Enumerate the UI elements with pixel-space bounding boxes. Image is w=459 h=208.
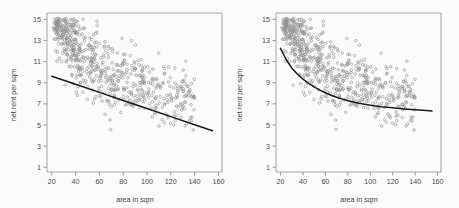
data-point — [391, 76, 394, 79]
data-point — [403, 69, 406, 72]
data-point — [134, 44, 137, 47]
data-point — [351, 76, 354, 79]
data-point — [191, 116, 194, 119]
data-point — [90, 38, 93, 41]
data-point — [184, 60, 187, 63]
data-point — [413, 129, 416, 132]
data-point — [355, 64, 358, 67]
data-point — [143, 66, 146, 69]
data-point — [116, 52, 119, 55]
data-point — [351, 96, 354, 99]
data-point — [380, 125, 383, 128]
data-point — [306, 28, 309, 31]
data-point — [299, 82, 302, 85]
plot-area-right — [280, 17, 432, 131]
data-point — [112, 68, 115, 71]
scatter-plot-left: 2040608010012014016013579111315 area in … — [0, 0, 229, 208]
data-point — [330, 49, 333, 52]
data-point — [96, 24, 99, 27]
data-point — [395, 67, 398, 70]
data-point — [151, 101, 154, 104]
data-point — [394, 123, 397, 126]
data-point — [350, 68, 353, 71]
data-point — [107, 67, 110, 70]
data-point — [310, 60, 313, 63]
data-point — [350, 63, 353, 66]
data-point — [334, 119, 337, 122]
data-point — [318, 102, 321, 105]
x-tick-label: 80 — [344, 177, 352, 186]
data-point — [111, 62, 114, 65]
data-point — [313, 67, 316, 70]
figure-container: 2040608010012014016013579111315 area in … — [0, 0, 459, 208]
data-point — [155, 104, 158, 107]
y-tick-label: 11 — [263, 57, 270, 66]
data-point — [86, 67, 89, 70]
data-point — [137, 59, 140, 62]
data-point — [193, 78, 196, 81]
x-tick-label: 80 — [119, 177, 127, 186]
data-point — [107, 87, 110, 90]
data-point — [139, 93, 142, 96]
data-point — [58, 57, 61, 60]
x-tick-label: 160 — [432, 177, 444, 186]
data-point — [358, 84, 361, 87]
data-point — [78, 34, 81, 37]
data-point — [126, 68, 129, 71]
data-point — [329, 41, 332, 44]
data-point — [143, 91, 146, 94]
data-point — [83, 60, 86, 63]
y-tick-label: 13 — [262, 36, 270, 45]
data-point — [292, 84, 295, 87]
y-tick-label: 7 — [37, 99, 41, 108]
x-tick-label: 120 — [165, 177, 177, 186]
data-point — [135, 84, 138, 87]
data-point — [390, 85, 393, 88]
data-point — [374, 94, 377, 97]
data-point — [107, 56, 110, 59]
data-point — [174, 119, 177, 122]
y-tick-label: 5 — [266, 121, 270, 130]
data-point — [57, 42, 60, 45]
data-point — [330, 81, 333, 84]
data-point — [100, 85, 103, 88]
data-point — [371, 88, 374, 91]
data-point — [396, 119, 399, 122]
data-point — [101, 100, 104, 103]
data-point — [96, 62, 99, 65]
data-point — [294, 45, 297, 48]
data-point — [377, 87, 380, 90]
data-point — [86, 98, 89, 101]
data-point — [165, 94, 168, 97]
data-point — [327, 100, 330, 103]
data-point — [346, 76, 349, 79]
data-point — [56, 60, 59, 63]
data-point — [137, 89, 140, 92]
data-point — [375, 68, 378, 71]
x-tick-label: 40 — [299, 177, 307, 186]
x-tick-label: 60 — [95, 177, 103, 186]
data-point — [88, 76, 91, 79]
data-point — [163, 121, 166, 124]
data-point — [120, 111, 123, 114]
data-point — [110, 83, 113, 86]
data-point — [353, 54, 356, 57]
data-point — [82, 18, 85, 21]
data-point — [193, 108, 196, 111]
chart-panel-left: 2040608010012014016013579111315 area in … — [0, 0, 229, 208]
data-point — [60, 60, 63, 63]
data-point — [410, 104, 413, 107]
data-point — [382, 95, 385, 98]
data-point — [303, 94, 306, 97]
data-point — [289, 52, 292, 55]
data-point — [190, 82, 193, 85]
data-point — [135, 74, 138, 77]
data-point — [360, 59, 363, 62]
data-point — [380, 52, 383, 55]
data-point — [374, 116, 377, 119]
data-point — [364, 64, 367, 67]
data-point — [133, 94, 136, 97]
data-point — [169, 76, 172, 79]
data-point — [321, 74, 324, 77]
data-point — [341, 52, 344, 55]
